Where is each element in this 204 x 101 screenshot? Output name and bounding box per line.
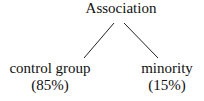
root-label: Association (80, 0, 162, 17)
edge-root-to-minority (124, 23, 158, 58)
control-group-percent: (85%) (4, 77, 96, 94)
control-group-label: control group (4, 60, 96, 77)
edge-root-to-control-group (84, 23, 114, 58)
root-node: Association (80, 0, 162, 17)
minority-label: minority (134, 60, 200, 77)
child-node-control-group: control group (85%) (4, 60, 96, 94)
minority-percent: (15%) (134, 77, 200, 94)
child-node-minority: minority (15%) (134, 60, 200, 94)
